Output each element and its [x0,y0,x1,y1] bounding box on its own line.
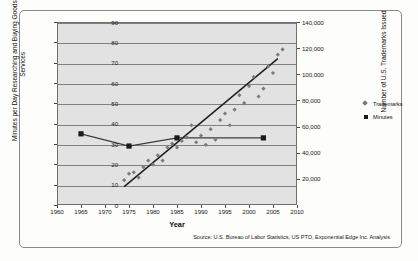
x-tickmark [81,205,82,208]
y-left-tickmark [54,164,57,165]
y-left-tick-label: 10 [90,181,118,188]
x-axis-title: Year [57,220,297,229]
x-tickmark [105,205,106,208]
x-tickmark [297,205,298,208]
legend-item-trademarks: Trademarks [362,100,403,108]
legend-label-minutes: Minutes [373,114,393,120]
y-left-tickmark [54,103,57,104]
minutes-data-point [126,143,131,148]
trademarks-data-point [281,47,285,51]
chart-figure: 0102030405060708090 20,00040,00060,00080… [0,0,418,261]
trademarks-data-point [209,127,213,131]
x-tickmark [273,205,274,208]
y-right-tickmark [297,74,300,75]
y-left-tickmark [54,83,57,84]
y-left-tick-label: 20 [90,161,118,168]
trademarks-data-point [127,172,131,176]
trademarks-data-point [223,111,227,115]
trademarks-data-point [161,158,165,162]
y-left-tickmark [54,63,57,64]
y-right-tickmark [297,127,300,128]
x-tickmark [201,205,202,208]
y-left-tickmark [54,22,57,23]
y-right-tick-label: 20,000 [302,175,342,182]
x-tickmark [153,205,154,208]
x-tickmark [57,205,58,208]
x-tickmark [129,205,130,208]
y-right-tickmark [297,153,300,154]
y-left-tickmark [54,144,57,145]
y-left-tick-label: 30 [90,141,118,148]
y-left-tick-label: 80 [90,39,118,46]
y-left-tickmark [54,42,57,43]
x-tick-label: 2010 [280,208,314,215]
diamond-icon [362,100,370,108]
y-right-tickmark [297,100,300,101]
trademarks-data-point [122,178,126,182]
y-right-tickmark [297,22,300,23]
trademarks-data-point [189,123,193,127]
y-left-tick-label: 40 [90,120,118,127]
trademarks-data-point [146,158,150,162]
y-right-tick-label: 140,000 [302,19,342,26]
y-left-tick-label: 60 [90,80,118,87]
trademarks-data-point [132,170,136,174]
y-right-tickmark [297,179,300,180]
trademarks-data-point [271,71,275,75]
trademarks-data-point [257,94,261,98]
trademarks-data-point [218,118,222,122]
trademarks-data-point [175,145,179,149]
minutes-data-point [78,131,83,136]
y-right-tick-label: 60,000 [302,123,342,130]
data-series-layer [57,22,297,205]
trademarks-data-point [261,87,265,91]
trademarks-data-point [199,134,203,138]
y-axis-left-title: Minutes per Day Researching and Buying G… [11,0,28,144]
minutes-data-point [174,135,179,140]
source-note: Source: U.S. Bureau of Labor Statistics,… [120,234,390,240]
legend-item-minutes: Minutes [362,113,403,121]
legend-label-trademarks: Trademarks [373,101,403,107]
trademarks-data-point [228,123,232,127]
y-right-tick-label: 80,000 [302,97,342,104]
trademarks-scatter-points [122,47,285,182]
x-tickmark [177,205,178,208]
trademarks-data-point [194,140,198,144]
minutes-data-point [261,135,266,140]
y-left-tick-label: 70 [90,59,118,66]
trademarks-data-point [242,101,246,105]
y-right-tick-label: 120,000 [302,45,342,52]
trademarks-data-point [237,93,241,97]
trademarks-data-point [276,53,280,57]
y-left-tickmark [54,124,57,125]
y-right-tickmark [297,48,300,49]
x-tickmark [225,205,226,208]
y-left-tick-label: 90 [90,19,118,26]
x-tickmark [249,205,250,208]
y-right-tick-label: 40,000 [302,149,342,156]
trademarks-data-point [233,107,237,111]
y-right-tick-label: 100,000 [302,71,342,78]
square-icon [362,113,370,121]
y-left-tick-label: 50 [90,100,118,107]
chart-legend: Trademarks Minutes [362,100,403,126]
y-left-tickmark [54,185,57,186]
trademarks-data-point [204,143,208,147]
